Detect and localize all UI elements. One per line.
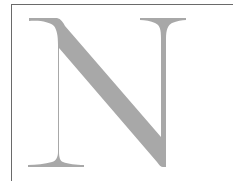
letter-n-glyph: N (0, 0, 233, 181)
letter-n-icon: N (0, 0, 233, 181)
